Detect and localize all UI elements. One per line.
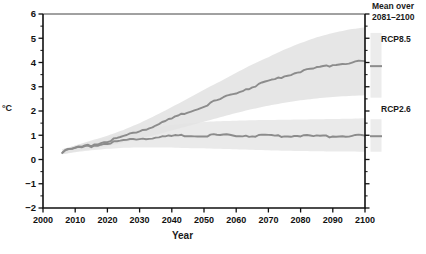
x-tick-label: 2100	[355, 215, 375, 225]
x-tick-label: 2000	[33, 215, 53, 225]
legend-label-rcp85: RCP8.5	[381, 34, 411, 44]
y-axis-label: °C	[2, 103, 12, 113]
x-tick-label: 2070	[258, 215, 278, 225]
climate-projection-chart: 6543210−1−220002010202020302040205020602…	[0, 0, 426, 254]
x-axis-label: Year	[0, 230, 365, 241]
y-tick-label: 6	[31, 8, 36, 19]
y-tick-label: −2	[25, 202, 36, 213]
x-tick-label: 2050	[194, 215, 214, 225]
legend-title-line2: 2081–2100	[372, 12, 415, 22]
x-tick-label: 2090	[323, 215, 343, 225]
y-tick-label: 0	[31, 154, 36, 165]
y-tick-label: 5	[31, 33, 37, 44]
y-tick-label: −1	[25, 178, 37, 189]
x-tick-label: 2030	[130, 215, 150, 225]
x-tick-label: 2010	[65, 215, 85, 225]
legend-label-rcp26: RCP2.6	[381, 104, 411, 114]
y-tick-label: 2	[31, 105, 36, 116]
y-tick-label: 1	[31, 130, 37, 141]
y-tick-label: 3	[31, 81, 36, 92]
x-tick-label: 2080	[291, 215, 311, 225]
legend-title: Mean over 2081–2100	[372, 1, 426, 23]
x-tick-label: 2020	[97, 215, 117, 225]
x-tick-label: 2060	[226, 215, 246, 225]
chart-canvas: 6543210−1−220002010202020302040205020602…	[0, 0, 426, 254]
legend-title-line1: Mean over	[372, 1, 414, 11]
y-tick-label: 4	[31, 57, 37, 68]
x-tick-label: 2040	[162, 215, 182, 225]
